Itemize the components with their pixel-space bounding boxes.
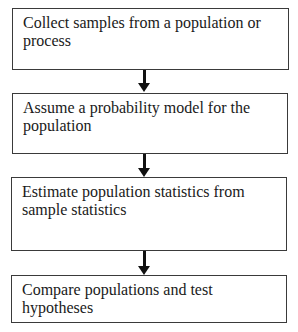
- step-estimate-statistics: Estimate population statistics from samp…: [11, 177, 287, 251]
- step-label: Assume a probability model for the popul…: [23, 99, 250, 134]
- step-collect-samples: Collect samples from a population or pro…: [12, 8, 289, 70]
- step-label: Compare populations and test hypotheses: [22, 281, 213, 316]
- step-probability-model: Assume a probability model for the popul…: [12, 93, 288, 154]
- step-label: Collect samples from a population or pro…: [23, 14, 261, 49]
- step-label: Estimate population statistics from samp…: [22, 183, 245, 218]
- step-compare-populations: Compare populations and test hypotheses: [11, 275, 287, 323]
